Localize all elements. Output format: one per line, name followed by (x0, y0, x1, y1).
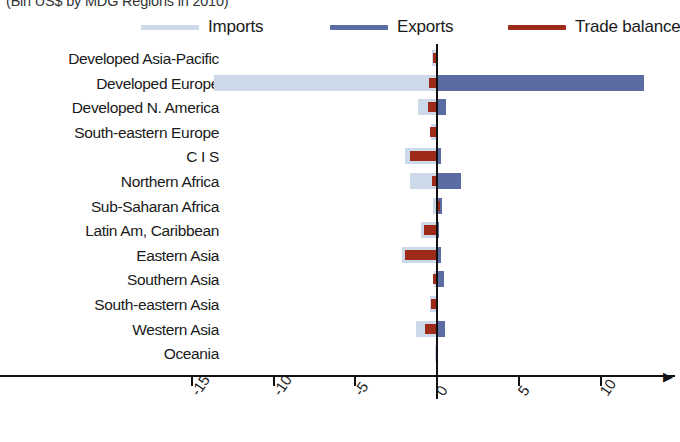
bar-trade-balance[interactable] (405, 250, 436, 260)
bar-group (219, 296, 675, 321)
bar-group (219, 271, 675, 296)
bar-group (219, 247, 675, 272)
bar-trade-balance[interactable] (410, 151, 436, 161)
bars-container (219, 44, 675, 375)
category-label: Developed N. America (0, 101, 219, 115)
legend-item-trade-balance[interactable]: Trade balance (508, 14, 680, 40)
chart-subtitle: (Bln US$ by MDG Regions in 2010) (6, 0, 228, 9)
line-swatch-icon (141, 25, 199, 30)
category-label: Developed Asia-Pacific (0, 52, 219, 66)
bar-group (219, 173, 675, 198)
category-label: Oceania (0, 347, 219, 361)
category-label: Western Asia (0, 323, 219, 337)
x-axis-tick (354, 377, 356, 386)
bar-group (219, 321, 675, 346)
legend-label-exports: Exports (397, 17, 453, 37)
category-label: Developed Europe (0, 77, 219, 91)
bar-group (219, 75, 675, 100)
x-axis-tick (191, 377, 193, 386)
bar-trade-balance[interactable] (428, 102, 436, 112)
x-axis-tick-label: 0 (432, 382, 451, 398)
category-label: C I S (0, 150, 219, 164)
bar-exports[interactable] (436, 173, 461, 189)
plot-area: Developed Asia-PacificDeveloped EuropeDe… (0, 44, 675, 399)
bar-trade-balance[interactable] (425, 324, 436, 334)
bar-group (219, 198, 675, 223)
category-label: Northern Africa (0, 175, 219, 189)
category-label: Sub-Saharan Africa (0, 200, 219, 214)
bar-group (219, 124, 675, 149)
bar-group (219, 50, 675, 75)
bar-exports[interactable] (436, 75, 644, 91)
bar-group (219, 345, 675, 370)
x-axis-tick (600, 377, 602, 386)
bar-trade-balance[interactable] (429, 78, 436, 88)
category-axis-labels: Developed Asia-PacificDeveloped EuropeDe… (0, 44, 219, 375)
legend-item-exports[interactable]: Exports (330, 14, 453, 40)
x-axis-tick (273, 377, 275, 386)
line-swatch-icon (508, 25, 566, 30)
category-label: South-eastern Europe (0, 126, 219, 140)
category-label: Eastern Asia (0, 249, 219, 263)
legend-item-imports[interactable]: Imports (141, 14, 263, 40)
bar-trade-balance[interactable] (424, 225, 436, 235)
category-label: South-eastern Asia (0, 298, 219, 312)
x-axis-tick (518, 377, 520, 386)
line-swatch-icon (330, 25, 388, 30)
chart-legend: Imports Exports Trade balance (0, 14, 675, 40)
zero-axis-line (436, 44, 438, 399)
legend-label-imports: Imports (208, 17, 263, 37)
bar-group (219, 99, 675, 124)
x-axis-line (0, 375, 675, 377)
bar-imports[interactable] (214, 75, 436, 91)
legend-label-trade-balance: Trade balance (575, 17, 680, 37)
category-label: Southern Asia (0, 273, 219, 287)
bar-group (219, 148, 675, 173)
bar-group (219, 222, 675, 247)
x-axis-tick-label: 5 (514, 382, 533, 398)
category-label: Latin Am, Caribbean (0, 224, 219, 238)
